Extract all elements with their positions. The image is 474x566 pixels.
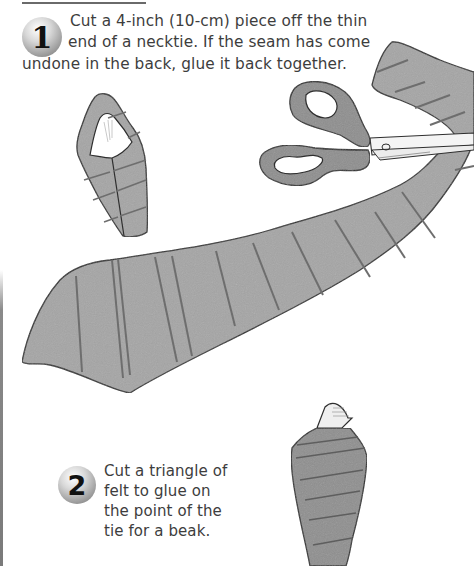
step-1-text-line-2: end of a necktie. If the seam has come (68, 32, 370, 53)
step-1-text-line-3: undone in the back, glue it back togethe… (22, 54, 347, 75)
step-2-badge: 2 (58, 466, 96, 504)
step-1-text-line-1: Cut a 4-inch (10-cm) piece off the thin (70, 11, 367, 32)
step-2-text: Cut a triangle of felt to glue on the po… (104, 461, 234, 541)
step-1-badge: 1 (22, 17, 62, 57)
step-1-number: 1 (32, 20, 53, 55)
necktie-illustration (22, 42, 474, 393)
step-2-number: 2 (68, 470, 87, 501)
tie-with-beak-illustration (291, 403, 367, 566)
folded-tie-piece-illustration (77, 94, 148, 237)
